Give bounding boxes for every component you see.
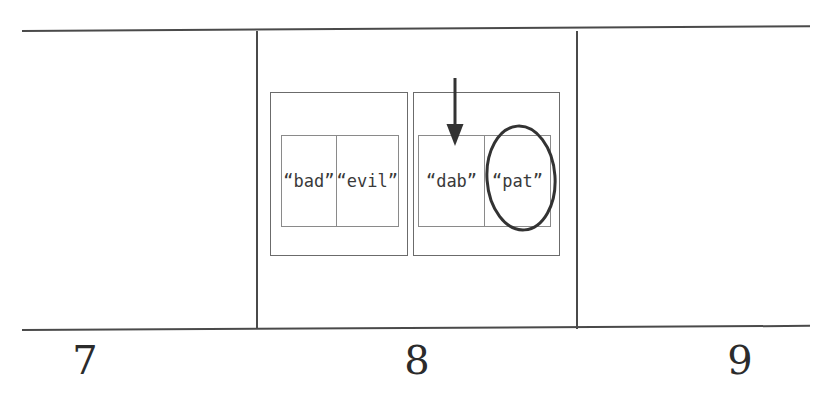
word-label-bad: “bad” — [283, 171, 334, 191]
word-label-dab: “dab” — [426, 171, 477, 191]
scale-number-9: 9 — [710, 340, 770, 380]
word-label-pat: “pat” — [492, 171, 543, 191]
interval-tick-right — [576, 31, 578, 329]
number-line-figure: 7 8 9 “bad” “evil” “dab” “pat” — [0, 0, 827, 404]
scale-number-7: 7 — [55, 340, 115, 380]
interval-tick-left — [256, 31, 258, 329]
scale-number-8: 8 — [387, 340, 447, 380]
word-cell-bad: “bad” — [282, 136, 336, 226]
number-line-bottom-rule — [22, 325, 810, 331]
word-cell-dab: “dab” — [419, 136, 484, 226]
word-cell-pat: “pat” — [484, 136, 550, 226]
inner-box-right: “dab” “pat” — [418, 135, 551, 227]
word-label-evil: “evil” — [337, 171, 398, 191]
inner-box-left: “bad” “evil” — [281, 135, 399, 227]
number-line-top-rule — [22, 25, 810, 31]
word-cell-evil: “evil” — [336, 136, 398, 226]
